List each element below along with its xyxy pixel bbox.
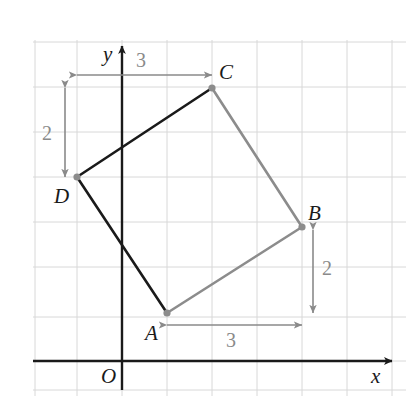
vertex-marker-C	[208, 84, 215, 91]
label-x: x	[371, 366, 380, 387]
label-C: C	[219, 62, 233, 83]
vertex-marker-A	[163, 309, 170, 316]
dimension-arrows	[65, 75, 313, 325]
label-D: D	[54, 186, 69, 207]
dimension-label-right-vertical: 2	[322, 258, 332, 278]
label-O: O	[101, 366, 116, 387]
label-B: B	[308, 203, 321, 224]
grid-lines	[33, 40, 406, 396]
vertex-marker-D	[73, 173, 80, 180]
coordinate-diagram: ABCDOxy3223	[0, 0, 406, 396]
dimension-label-top-horizontal: 3	[136, 50, 146, 70]
label-y: y	[103, 44, 112, 65]
label-A: A	[145, 323, 158, 344]
dimension-label-left-vertical: 2	[42, 123, 52, 143]
edge-BA	[167, 227, 302, 313]
vertex-marker-B	[298, 223, 305, 230]
dimension-label-bottom-horizontal: 3	[226, 330, 236, 350]
vertex-markers	[73, 84, 305, 316]
square-edges	[77, 88, 302, 313]
